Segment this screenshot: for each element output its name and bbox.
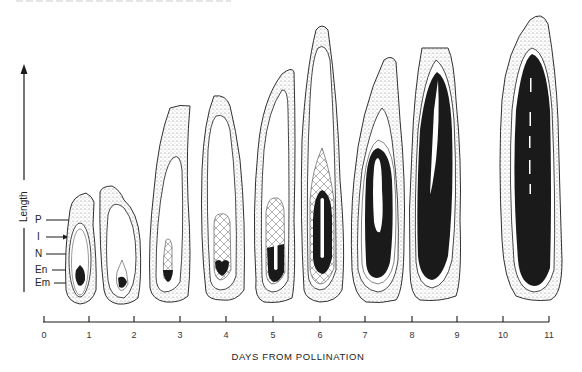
label-em: Em [35, 277, 50, 288]
tick-0: 0 [41, 330, 46, 340]
tick-10: 10 [498, 330, 508, 340]
y-axis-label: Length [18, 191, 29, 222]
kernel-day-6 [301, 26, 343, 302]
label-i: I [37, 231, 40, 242]
tick-11: 11 [544, 330, 553, 340]
label-p: P [35, 214, 42, 225]
tick-2: 2 [131, 330, 136, 340]
endosperm-fill [514, 54, 551, 286]
tick-6: 6 [317, 330, 322, 340]
y-axis: Length [18, 64, 29, 292]
tick-9: 9 [454, 330, 459, 340]
kernel-day-1 [66, 193, 97, 304]
kernel-day-5 [254, 69, 295, 302]
kernel-day-7 [351, 57, 404, 302]
tick-8: 8 [409, 330, 414, 340]
tick-1: 1 [86, 330, 91, 340]
label-n: N [35, 248, 42, 259]
tick-4: 4 [223, 330, 228, 340]
arrowhead-up-icon [21, 64, 28, 74]
x-axis-title: DAYS FROM POLLINATION [231, 351, 364, 362]
tick-3: 3 [177, 330, 182, 340]
tick-5: 5 [270, 330, 275, 340]
kernel-day-4 [202, 96, 245, 301]
kernel-day-10-11 [500, 16, 562, 301]
label-en: En [35, 264, 47, 275]
kernel-day-3 [150, 105, 191, 302]
kernel-development-diagram: Length P I N En Em [0, 0, 582, 372]
tick-7: 7 [362, 330, 367, 340]
kernel-day-8-9 [409, 48, 460, 301]
kernel-day-2 [100, 186, 141, 304]
x-axis: 0 1 2 3 4 5 6 7 8 9 10 11 DAYS FROM POLL… [41, 316, 553, 362]
